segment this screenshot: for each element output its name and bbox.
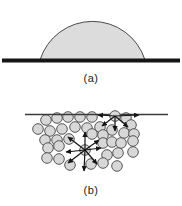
figure-canvas: (a) (b) xyxy=(0,0,182,206)
molecule xyxy=(112,161,123,172)
molecule xyxy=(33,124,44,135)
molecule xyxy=(98,158,109,169)
molecule xyxy=(43,143,54,154)
molecule xyxy=(119,128,130,139)
molecule xyxy=(70,122,81,133)
molecule xyxy=(128,136,139,147)
panel-a-label: (a) xyxy=(0,71,182,85)
molecule xyxy=(75,112,86,123)
molecule xyxy=(87,129,98,140)
molecule xyxy=(41,115,52,126)
molecule xyxy=(116,138,127,149)
molecule xyxy=(57,124,68,135)
molecule xyxy=(64,134,75,145)
molecule xyxy=(86,159,97,170)
panel-b-label: (b) xyxy=(0,183,182,197)
molecule xyxy=(87,112,98,123)
molecule xyxy=(42,153,53,164)
molecule xyxy=(54,154,65,165)
molecule xyxy=(113,148,124,159)
diagram-svg xyxy=(0,0,182,206)
molecule xyxy=(128,147,139,158)
molecule xyxy=(63,112,74,123)
liquid-drop xyxy=(40,21,145,60)
molecule xyxy=(54,141,65,152)
